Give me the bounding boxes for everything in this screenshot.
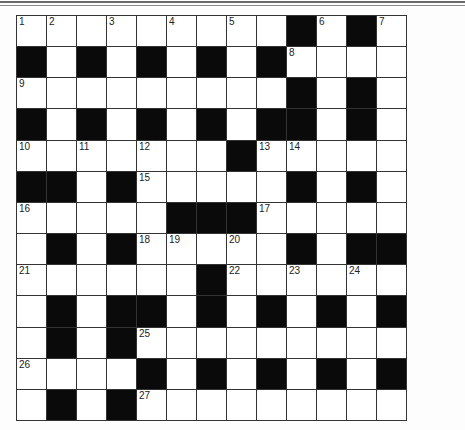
answer-cell[interactable]: [17, 390, 46, 420]
answer-cell[interactable]: [47, 78, 76, 108]
answer-cell[interactable]: [77, 16, 106, 46]
answer-cell[interactable]: [227, 296, 256, 326]
answer-cell[interactable]: [107, 141, 136, 171]
answer-cell[interactable]: [347, 47, 376, 77]
answer-cell[interactable]: 6: [317, 16, 346, 46]
answer-cell[interactable]: [257, 328, 286, 358]
answer-cell[interactable]: [317, 203, 346, 233]
answer-cell[interactable]: 7: [377, 16, 406, 46]
answer-cell[interactable]: [317, 141, 346, 171]
answer-cell[interactable]: [47, 359, 76, 389]
answer-cell[interactable]: [17, 328, 46, 358]
answer-cell[interactable]: [77, 296, 106, 326]
answer-cell[interactable]: [107, 359, 136, 389]
answer-cell[interactable]: [347, 203, 376, 233]
answer-cell[interactable]: [107, 265, 136, 295]
answer-cell[interactable]: 14: [287, 141, 316, 171]
answer-cell[interactable]: [17, 234, 46, 264]
answer-cell[interactable]: 18: [137, 234, 166, 264]
answer-cell[interactable]: [227, 47, 256, 77]
answer-cell[interactable]: 25: [137, 328, 166, 358]
answer-cell[interactable]: 26: [17, 359, 46, 389]
answer-cell[interactable]: 2: [47, 16, 76, 46]
answer-cell[interactable]: [137, 265, 166, 295]
answer-cell[interactable]: [197, 78, 226, 108]
answer-cell[interactable]: [77, 265, 106, 295]
answer-cell[interactable]: [197, 16, 226, 46]
answer-cell[interactable]: [287, 296, 316, 326]
answer-cell[interactable]: [17, 296, 46, 326]
answer-cell[interactable]: [77, 203, 106, 233]
answer-cell[interactable]: [317, 390, 346, 420]
answer-cell[interactable]: [197, 234, 226, 264]
answer-cell[interactable]: [377, 172, 406, 202]
answer-cell[interactable]: 9: [17, 78, 46, 108]
answer-cell[interactable]: [137, 16, 166, 46]
answer-cell[interactable]: [317, 172, 346, 202]
answer-cell[interactable]: [257, 265, 286, 295]
answer-cell[interactable]: [227, 328, 256, 358]
answer-cell[interactable]: [77, 172, 106, 202]
answer-cell[interactable]: [377, 265, 406, 295]
answer-cell[interactable]: [47, 109, 76, 139]
answer-cell[interactable]: [167, 390, 196, 420]
answer-cell[interactable]: [197, 390, 226, 420]
answer-cell[interactable]: 20: [227, 234, 256, 264]
answer-cell[interactable]: [377, 78, 406, 108]
answer-cell[interactable]: [257, 390, 286, 420]
answer-cell[interactable]: 22: [227, 265, 256, 295]
answer-cell[interactable]: [257, 78, 286, 108]
answer-cell[interactable]: 16: [17, 203, 46, 233]
answer-cell[interactable]: 3: [107, 16, 136, 46]
answer-cell[interactable]: [317, 328, 346, 358]
answer-cell[interactable]: [77, 390, 106, 420]
answer-cell[interactable]: [227, 390, 256, 420]
answer-cell[interactable]: [317, 78, 346, 108]
answer-cell[interactable]: [257, 172, 286, 202]
answer-cell[interactable]: [377, 47, 406, 77]
answer-cell[interactable]: 11: [77, 141, 106, 171]
answer-cell[interactable]: [287, 328, 316, 358]
answer-cell[interactable]: [167, 141, 196, 171]
answer-cell[interactable]: [377, 109, 406, 139]
answer-cell[interactable]: [47, 265, 76, 295]
answer-cell[interactable]: [347, 328, 376, 358]
answer-cell[interactable]: 23: [287, 265, 316, 295]
answer-cell[interactable]: 19: [167, 234, 196, 264]
answer-cell[interactable]: [77, 359, 106, 389]
answer-cell[interactable]: [167, 296, 196, 326]
answer-cell[interactable]: [227, 109, 256, 139]
answer-cell[interactable]: 24: [347, 265, 376, 295]
answer-cell[interactable]: [377, 328, 406, 358]
answer-cell[interactable]: [227, 78, 256, 108]
answer-cell[interactable]: [197, 172, 226, 202]
answer-cell[interactable]: [107, 203, 136, 233]
answer-cell[interactable]: [377, 203, 406, 233]
answer-cell[interactable]: [47, 141, 76, 171]
answer-cell[interactable]: 17: [257, 203, 286, 233]
answer-cell[interactable]: [107, 109, 136, 139]
answer-cell[interactable]: [287, 390, 316, 420]
answer-cell[interactable]: 4: [167, 16, 196, 46]
answer-cell[interactable]: [347, 141, 376, 171]
answer-cell[interactable]: [317, 234, 346, 264]
answer-cell[interactable]: [167, 47, 196, 77]
answer-cell[interactable]: [257, 16, 286, 46]
answer-cell[interactable]: [377, 390, 406, 420]
answer-cell[interactable]: [167, 109, 196, 139]
answer-cell[interactable]: [377, 141, 406, 171]
answer-cell[interactable]: 1: [17, 16, 46, 46]
answer-cell[interactable]: [167, 172, 196, 202]
answer-cell[interactable]: [137, 203, 166, 233]
answer-cell[interactable]: [347, 390, 376, 420]
answer-cell[interactable]: 8: [287, 47, 316, 77]
answer-cell[interactable]: [167, 328, 196, 358]
answer-cell[interactable]: [227, 359, 256, 389]
answer-cell[interactable]: [107, 47, 136, 77]
answer-cell[interactable]: [137, 78, 166, 108]
answer-cell[interactable]: [77, 78, 106, 108]
answer-cell[interactable]: 21: [17, 265, 46, 295]
answer-cell[interactable]: [77, 328, 106, 358]
answer-cell[interactable]: 15: [137, 172, 166, 202]
answer-cell[interactable]: 10: [17, 141, 46, 171]
